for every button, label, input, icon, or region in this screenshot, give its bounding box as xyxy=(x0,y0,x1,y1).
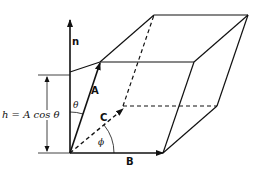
label-theta: θ xyxy=(73,101,78,110)
label-a: A xyxy=(91,86,99,96)
phi-arc xyxy=(104,125,114,153)
parallelepiped-diagram xyxy=(0,0,262,172)
label-c: C xyxy=(100,113,107,123)
label-b: B xyxy=(126,157,134,167)
label-n: n xyxy=(72,37,79,47)
height-label: h = A cos θ xyxy=(2,110,60,120)
label-phi: ϕ xyxy=(98,138,104,147)
edge xyxy=(70,62,100,72)
theta-arc xyxy=(70,112,83,114)
